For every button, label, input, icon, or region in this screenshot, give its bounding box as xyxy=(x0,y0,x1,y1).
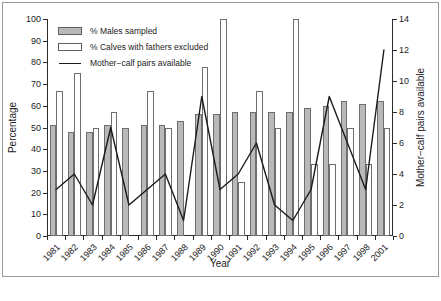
y-tick-label-left: 40 xyxy=(31,144,41,154)
legend-label-males: % Males sampled xyxy=(90,26,157,36)
y-tick-label-left: 20 xyxy=(31,188,41,198)
y-tick-right xyxy=(393,81,397,82)
y-tick-right xyxy=(393,174,397,175)
y-axis-title-right: Mother−calf pairs available xyxy=(414,19,428,236)
y-tick-label-right: 0 xyxy=(399,231,404,241)
y-tick-right xyxy=(393,112,397,113)
x-tick xyxy=(174,236,175,240)
y-tick-right xyxy=(393,205,397,206)
y-tick-right xyxy=(393,50,397,51)
y-tick-label-left: 100 xyxy=(26,14,41,24)
x-tick xyxy=(65,236,66,240)
figure-container: Percentage Mother−calf pairs available Y… xyxy=(0,0,441,301)
x-tick xyxy=(266,236,267,240)
chart-legend: % Males sampled % Calves with fathers ex… xyxy=(58,24,238,72)
x-tick xyxy=(229,236,230,240)
males-swatch-icon xyxy=(58,27,82,35)
y-tick-label-left: 0 xyxy=(36,231,41,241)
y-tick-label-left: 80 xyxy=(31,57,41,67)
x-tick xyxy=(102,236,103,240)
x-tick xyxy=(83,236,84,240)
legend-item-calves: % Calves with fathers excluded xyxy=(58,40,238,53)
x-tick xyxy=(47,236,48,240)
x-tick xyxy=(284,236,285,240)
y-tick-label-right: 14 xyxy=(399,14,409,24)
x-tick xyxy=(193,236,194,240)
y-tick-label-left: 60 xyxy=(31,101,41,111)
y-tick-label-right: 12 xyxy=(399,45,409,55)
y-tick-label-right: 4 xyxy=(399,169,404,179)
y-tick-label-left: 90 xyxy=(31,36,41,46)
y-tick-label-right: 2 xyxy=(399,200,404,210)
x-tick xyxy=(393,236,394,240)
x-tick xyxy=(302,236,303,240)
x-tick xyxy=(357,236,358,240)
y-tick-label-right: 8 xyxy=(399,107,404,117)
mother-calf-pairs-line xyxy=(56,50,384,221)
legend-item-pairs: Mother−calf pairs available xyxy=(58,56,238,69)
y-tick-right xyxy=(393,19,397,20)
y-axis-title-left: Percentage xyxy=(6,19,20,236)
legend-label-pairs: Mother−calf pairs available xyxy=(90,58,191,68)
x-tick xyxy=(338,236,339,240)
x-tick xyxy=(156,236,157,240)
x-tick xyxy=(375,236,376,240)
x-tick xyxy=(211,236,212,240)
line-swatch-icon xyxy=(58,59,82,67)
x-tick xyxy=(120,236,121,240)
y-tick-label-right: 10 xyxy=(399,76,409,86)
x-tick xyxy=(138,236,139,240)
y-tick-right xyxy=(393,143,397,144)
calves-swatch-icon xyxy=(58,43,82,51)
y-tick-label-left: 30 xyxy=(31,166,41,176)
y-axis-title-right-text: Mother−calf pairs available xyxy=(416,68,427,187)
legend-item-males: % Males sampled xyxy=(58,24,238,37)
y-tick-label-left: 70 xyxy=(31,79,41,89)
x-tick xyxy=(247,236,248,240)
legend-label-calves: % Calves with fathers excluded xyxy=(90,42,208,52)
y-axis-title-left-text: Percentage xyxy=(8,102,19,153)
x-tick xyxy=(320,236,321,240)
y-tick-label-left: 10 xyxy=(31,209,41,219)
y-tick-label-right: 6 xyxy=(399,138,404,148)
y-tick-label-left: 50 xyxy=(31,123,41,133)
